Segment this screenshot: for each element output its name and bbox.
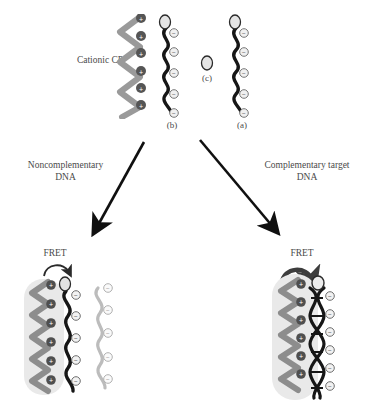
svg-text:+: +: [139, 16, 143, 23]
fret-label-right: FRET: [272, 248, 332, 259]
bottom-left-complex: + + + + + + − − − − − − − − − −: [18, 275, 136, 400]
svg-text:+: +: [299, 299, 303, 306]
svg-text:−: −: [172, 110, 176, 117]
svg-text:−: −: [74, 313, 78, 320]
noncomplementary-charge-group-left: − − − − −: [104, 284, 113, 384]
svg-text:+: +: [49, 301, 53, 308]
fluorophore-oval-left: [60, 277, 71, 291]
bottom-right-complex: + + + + + + − − − − − −: [268, 272, 358, 404]
svg-text:+: +: [299, 317, 303, 324]
svg-text:−: −: [242, 30, 246, 37]
svg-text:+: +: [139, 86, 143, 93]
fret-label-left: FRET: [30, 248, 80, 259]
svg-text:+: +: [299, 335, 303, 342]
dna-strand-b: − − − − −: [152, 14, 196, 119]
svg-text:+: +: [139, 51, 143, 58]
svg-text:−: −: [74, 335, 78, 342]
svg-text:+: +: [139, 69, 143, 76]
dna-charge-group-left: − − − − −: [72, 291, 81, 386]
strand-b-label: (b): [150, 120, 194, 131]
noncomplementary-dna-label-line2: DNA: [8, 172, 123, 183]
svg-text:−: −: [74, 357, 78, 364]
svg-text:+: +: [299, 281, 303, 288]
svg-text:−: −: [242, 110, 246, 117]
svg-text:+: +: [49, 377, 53, 384]
svg-text:+: +: [49, 282, 53, 289]
dna-charge-group-right: − − − − − −: [326, 292, 335, 391]
dna-strand-a: − − − − −: [222, 14, 266, 119]
svg-text:+: +: [49, 339, 53, 346]
svg-text:+: +: [49, 320, 53, 327]
svg-text:−: −: [328, 293, 332, 300]
complementary-dna-label-line1: Complementary target: [248, 160, 366, 171]
noncomplementary-dna-label-line1: Noncomplementary: [8, 160, 123, 171]
down-left-arrow: [80, 135, 150, 245]
labelled-dna-strand-left: [64, 291, 73, 391]
svg-text:−: −: [242, 49, 246, 56]
svg-text:−: −: [328, 329, 332, 336]
svg-text:−: −: [74, 292, 78, 299]
svg-text:−: −: [172, 91, 176, 98]
svg-text:−: −: [106, 354, 110, 361]
svg-text:−: −: [328, 365, 332, 372]
svg-text:−: −: [106, 330, 110, 337]
svg-text:−: −: [328, 347, 332, 354]
svg-text:−: −: [242, 91, 246, 98]
noncomplementary-dna-strand-left: [96, 288, 105, 388]
svg-text:+: +: [49, 358, 53, 365]
svg-text:+: +: [139, 103, 143, 110]
svg-text:−: −: [242, 70, 246, 77]
dna-b-charge-group: − − − − −: [170, 29, 179, 118]
complementary-dna-label-line2: DNA: [248, 172, 366, 183]
fluorophore-oval-right: [312, 276, 324, 290]
svg-text:+: +: [299, 371, 303, 378]
svg-text:−: −: [106, 307, 110, 314]
svg-text:−: −: [172, 49, 176, 56]
svg-text:−: −: [328, 383, 332, 390]
svg-text:+: +: [139, 34, 143, 41]
svg-text:−: −: [172, 70, 176, 77]
svg-text:+: +: [299, 353, 303, 360]
svg-text:−: −: [106, 285, 110, 292]
figure-canvas: Cationic CP + + + + + + − − − − − (b) (c…: [0, 0, 370, 408]
cp-charge-group-top: + + + + + +: [136, 14, 146, 110]
fluorophore-oval-a: [230, 15, 241, 29]
svg-text:−: −: [74, 378, 78, 385]
fluorophore-oval-b: [160, 15, 171, 29]
svg-text:−: −: [106, 376, 110, 383]
dna-a-charge-group: − − − − −: [240, 29, 249, 118]
strand-a-label: (a): [220, 120, 264, 131]
svg-text:−: −: [172, 30, 176, 37]
svg-text:−: −: [328, 311, 332, 318]
down-right-arrow: [195, 135, 290, 245]
